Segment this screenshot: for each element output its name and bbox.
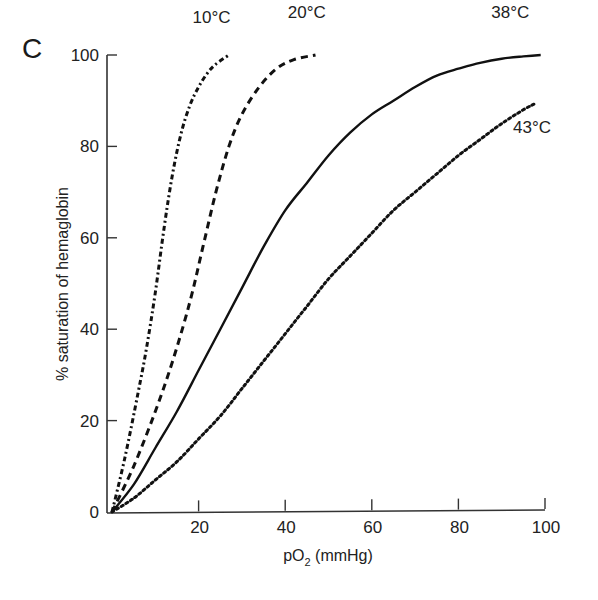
x-tick-label: 20 (190, 518, 209, 537)
curve-20c (112, 55, 316, 512)
y-tick-label: 0 (90, 503, 99, 522)
series-label: 10°C (193, 8, 231, 27)
series-labels: 10°C20°C38°C43°C (193, 3, 551, 136)
x-tick-label: 40 (277, 518, 296, 537)
axes: 02040608010020406080100 (71, 46, 561, 537)
x-axis-title: pO2 (mmHg) (283, 547, 373, 568)
x-tick-label: 100 (532, 518, 560, 537)
y-tick-label: 40 (80, 320, 99, 339)
y-tick-label: 80 (80, 137, 99, 156)
x-tick-label: 60 (363, 518, 382, 537)
y-tick-label: 20 (80, 412, 99, 431)
curve-10c (112, 55, 229, 512)
x-tick-label: 80 (450, 518, 469, 537)
series-label: 43°C (513, 118, 551, 137)
curves (112, 55, 541, 512)
x-axis-line (107, 510, 545, 513)
y-axis-title: % saturation of hemaglobin (54, 187, 71, 381)
y-tick-label: 100 (71, 46, 99, 65)
oxygen-dissociation-chart: 02040608010020406080100 10°C20°C38°C43°C… (0, 0, 598, 600)
series-label: 20°C (288, 3, 326, 22)
y-tick-label: 60 (80, 229, 99, 248)
series-label: 38°C (491, 3, 529, 22)
